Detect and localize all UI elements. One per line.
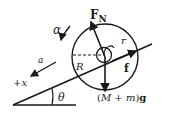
normal-force-label: FN xyxy=(90,8,107,24)
angular-accel-arrow-icon xyxy=(61,26,70,40)
angle-theta-label: θ xyxy=(58,91,65,104)
positive-x-label: +x xyxy=(13,77,27,88)
acceleration-arrow xyxy=(31,62,56,76)
angular-accel-label: α xyxy=(53,23,61,37)
radius-r-label: r xyxy=(121,35,127,46)
angle-arc xyxy=(52,88,53,105)
friction-label: f xyxy=(124,62,130,75)
acceleration-label: a xyxy=(38,55,43,65)
normal-force-arrow xyxy=(91,22,105,57)
radius-R-label: R xyxy=(75,61,84,72)
weight-label: (M + m)g xyxy=(97,92,146,103)
friction-arrow xyxy=(112,51,136,61)
physics-diagram: FN α r R f (M + m)g a +x θ xyxy=(0,0,172,115)
